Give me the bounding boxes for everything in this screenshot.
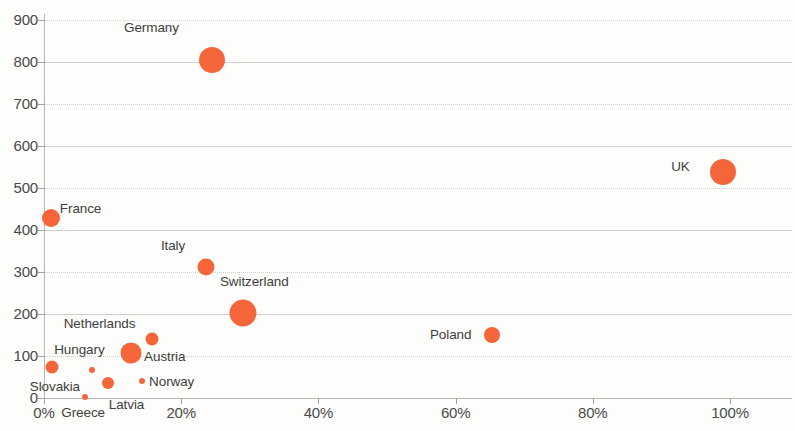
point-label-greece: Greece xyxy=(61,405,105,420)
y-axis-tick xyxy=(38,356,45,357)
bubble-austria xyxy=(121,343,142,364)
point-label-hungary: Hungary xyxy=(54,342,104,357)
point-label-austria: Austria xyxy=(144,349,185,364)
point-label-slovakia: Slovakia xyxy=(30,379,80,394)
y-axis-tick-label: 600 xyxy=(0,137,38,154)
bubble-chart: 0100200300400500600700800900 0%20%40%60%… xyxy=(0,0,795,431)
bubble-netherlands xyxy=(145,333,158,346)
y-axis-tick xyxy=(38,314,45,315)
gridline-horizontal xyxy=(44,230,792,231)
bubble-poland xyxy=(484,327,500,343)
bubble-germany xyxy=(199,47,225,73)
point-label-france: France xyxy=(60,201,101,216)
gridline-horizontal xyxy=(44,188,792,189)
gridline-horizontal xyxy=(44,314,792,315)
point-label-latvia: Latvia xyxy=(109,397,144,412)
gridline-horizontal xyxy=(44,272,792,273)
x-axis-tick-label: 20% xyxy=(151,404,211,421)
y-axis-tick-label: 100 xyxy=(0,347,38,364)
point-label-norway: Norway xyxy=(149,374,194,389)
point-label-germany: Germany xyxy=(124,20,179,35)
bubble-france xyxy=(42,209,60,227)
y-axis-tick-label: 900 xyxy=(0,11,38,28)
x-axis-tick-label: 60% xyxy=(426,404,486,421)
point-label-poland: Poland xyxy=(430,327,471,342)
y-axis-tick-label: 200 xyxy=(0,305,38,322)
bubble-italy xyxy=(197,258,214,275)
x-axis-tick-label: 100% xyxy=(700,404,760,421)
bubble-greece xyxy=(82,394,88,400)
x-axis-line xyxy=(44,398,792,399)
gridline-horizontal xyxy=(44,146,792,147)
bubble-slovakia xyxy=(89,367,95,373)
point-label-italy: Italy xyxy=(161,238,185,253)
gridline-horizontal xyxy=(44,62,792,63)
point-label-uk: UK xyxy=(671,159,690,174)
bubble-hungary xyxy=(46,360,59,373)
y-axis-tick-label: 300 xyxy=(0,263,38,280)
y-axis-tick xyxy=(38,230,45,231)
bubble-norway xyxy=(139,378,145,384)
bubble-uk xyxy=(710,159,736,185)
y-axis-tick-label: 800 xyxy=(0,53,38,70)
y-axis-tick xyxy=(38,272,45,273)
y-axis-line xyxy=(44,14,45,399)
x-axis-tick-label: 80% xyxy=(563,404,623,421)
plot-area: 0100200300400500600700800900 0%20%40%60%… xyxy=(0,0,795,431)
bubble-latvia xyxy=(102,377,114,389)
y-axis-tick-label: 500 xyxy=(0,179,38,196)
y-axis-tick xyxy=(38,104,45,105)
y-axis-tick xyxy=(38,62,45,63)
point-label-netherlands: Netherlands xyxy=(64,316,136,331)
x-axis-tick-label: 40% xyxy=(288,404,348,421)
y-axis-tick xyxy=(38,20,45,21)
gridline-horizontal xyxy=(44,104,792,105)
bubble-switzerland xyxy=(229,300,256,327)
y-axis-tick-label: 400 xyxy=(0,221,38,238)
point-label-switzerland: Switzerland xyxy=(220,274,289,289)
y-axis-tick-label: 700 xyxy=(0,95,38,112)
y-axis-tick xyxy=(38,188,45,189)
y-axis-tick xyxy=(38,146,45,147)
